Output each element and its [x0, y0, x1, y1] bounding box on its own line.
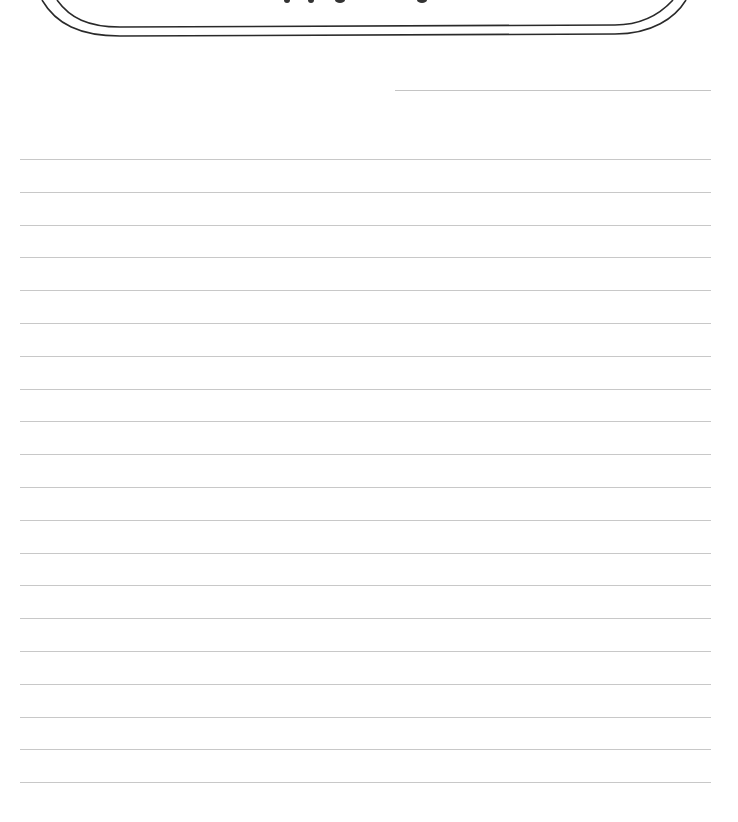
writing-line[interactable] — [20, 553, 711, 554]
writing-line[interactable] — [20, 684, 711, 685]
writing-line[interactable] — [20, 421, 711, 422]
writing-line[interactable] — [20, 782, 711, 783]
writing-line[interactable] — [20, 257, 711, 258]
name-line[interactable] — [395, 90, 711, 91]
writing-line[interactable] — [20, 585, 711, 586]
writing-line[interactable] — [20, 225, 711, 226]
writing-line[interactable] — [20, 159, 711, 160]
writing-line[interactable] — [20, 651, 711, 652]
writing-line[interactable] — [20, 389, 711, 390]
writing-line[interactable] — [20, 454, 711, 455]
writing-line[interactable] — [20, 717, 711, 718]
writing-line[interactable] — [20, 192, 711, 193]
writing-line[interactable] — [20, 356, 711, 357]
writing-line[interactable] — [20, 290, 711, 291]
writing-line[interactable] — [20, 618, 711, 619]
writing-line[interactable] — [20, 520, 711, 521]
writing-line[interactable] — [20, 323, 711, 324]
writing-line[interactable] — [20, 487, 711, 488]
writing-line[interactable] — [20, 749, 711, 750]
title-descenders — [0, 0, 738, 10]
